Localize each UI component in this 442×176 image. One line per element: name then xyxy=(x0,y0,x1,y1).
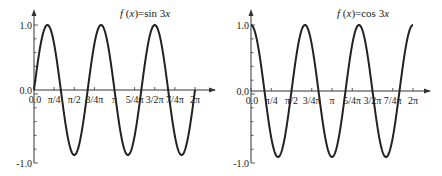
y-tick-label: 1.0 xyxy=(20,20,33,31)
chart-title: f (x)=sin 3x xyxy=(120,7,170,20)
x-tick-label: 0.0 xyxy=(246,95,259,106)
x-tick-label: π/2 xyxy=(68,94,81,105)
x-tick-label: 2π xyxy=(408,95,418,106)
y-axis-arrow-icon xyxy=(249,9,254,16)
x-tick-label: 5/4π xyxy=(343,95,361,106)
x-tick-label: 3/4π xyxy=(85,94,103,105)
x-tick-label: π xyxy=(329,95,334,106)
y-tick-label: 1.0 xyxy=(237,20,250,31)
y-axis-arrow-icon xyxy=(32,9,37,16)
chart-panel-2: 1.00.0-1.00.0π/4π/23/4ππ5/4π3/2π7/4π2πf … xyxy=(233,7,431,169)
chart-title: f (x)=cos 3x xyxy=(337,7,389,20)
x-tick-label: 3/4π xyxy=(303,95,321,106)
y-tick-label: -1.0 xyxy=(233,158,249,169)
y-tick-label: -1.0 xyxy=(16,158,32,169)
x-axis-arrow-icon xyxy=(424,89,431,94)
chart-canvas: 1.00.0-1.00.0π/4π/23/4ππ5/4π3/2π7/4π2πf … xyxy=(0,0,442,176)
x-tick-label: 3/2π xyxy=(146,94,164,105)
x-tick-label: 0.0 xyxy=(29,94,42,105)
x-tick-label: π/4 xyxy=(48,94,61,105)
chart-panel-1: 1.00.0-1.00.0π/4π/23/4ππ5/4π3/2π7/4π2πf … xyxy=(16,7,216,169)
x-axis-arrow-icon xyxy=(209,88,216,93)
